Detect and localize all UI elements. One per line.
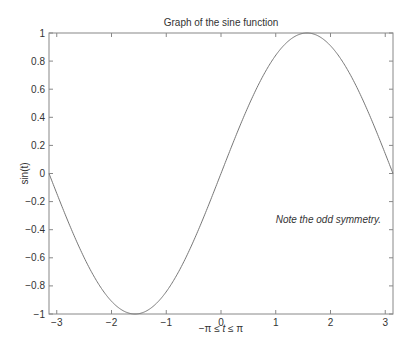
x-tick-label: −3 [51, 317, 63, 328]
y-tick-label: 1 [39, 28, 45, 39]
sine-curve [49, 33, 393, 314]
plot-area: Note the odd symmetry. [49, 33, 393, 314]
y-tick-label: −0.2 [25, 196, 45, 207]
y-axis-label: sin(t) [19, 162, 30, 184]
y-tick-label: 0.8 [31, 56, 45, 67]
chart-title: Graph of the sine function [164, 17, 279, 28]
y-tick-label: −0.6 [25, 252, 45, 263]
y-tick-label: −0.8 [25, 280, 45, 291]
y-tick-label: −0.4 [25, 224, 45, 235]
x-tick-label: −1 [161, 317, 173, 328]
x-axis-label: −π ≤ t ≤ π [199, 323, 244, 334]
annotation-odd-symmetry: Note the odd symmetry. [276, 214, 381, 225]
y-tick-label: 0.2 [31, 140, 45, 151]
x-tick-label: 3 [382, 317, 388, 328]
sine-chart: Graph of the sine function Note the odd … [0, 0, 420, 353]
y-tick-label: 0 [39, 168, 45, 179]
y-tick-label: 0.6 [31, 84, 45, 95]
x-tick-label: 2 [328, 317, 334, 328]
x-tick-label: 1 [273, 317, 279, 328]
y-tick-label: 0.4 [31, 112, 45, 123]
y-tick-label: −1 [34, 309, 46, 320]
x-tick-label: −2 [106, 317, 118, 328]
